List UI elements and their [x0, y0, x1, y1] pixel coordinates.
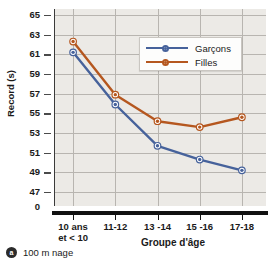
- figure-caption: a 100 m nage: [6, 247, 73, 258]
- data-point-core: [240, 169, 243, 172]
- data-point-core: [156, 120, 159, 123]
- x-axis-title: Groupe d'âge: [78, 237, 268, 248]
- data-point-core: [71, 51, 74, 54]
- data-point-core: [240, 116, 243, 119]
- legend-swatch-filles: [146, 57, 188, 67]
- caption-text: 100 m nage: [23, 247, 73, 258]
- data-point-core: [156, 144, 159, 147]
- legend-item-filles: Filles: [146, 56, 217, 68]
- legend-label-garcons: Garçons: [195, 43, 231, 54]
- legend-swatch-garcons: [146, 43, 188, 53]
- chart-figure: 656361595755535149470 10 anset < 1011-12…: [0, 0, 279, 270]
- legend: Garçons Filles: [139, 37, 242, 71]
- data-point-core: [114, 93, 117, 96]
- data-point-core: [198, 158, 201, 161]
- legend-item-garcons: Garçons: [146, 42, 231, 54]
- data-point-core: [198, 125, 201, 128]
- data-point-core: [71, 40, 74, 43]
- legend-label-filles: Filles: [195, 57, 217, 68]
- caption-badge-icon: a: [6, 247, 17, 258]
- data-point-core: [114, 103, 117, 106]
- y-axis-title: Record (s): [5, 59, 16, 129]
